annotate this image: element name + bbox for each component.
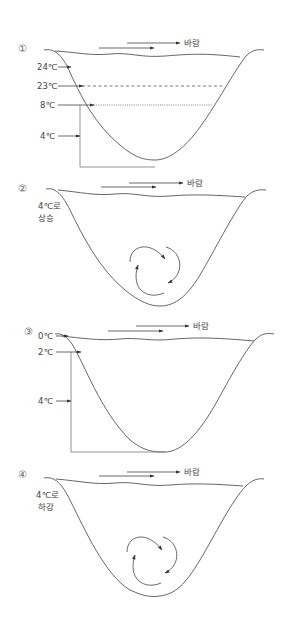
sink-label-line2: 하강 bbox=[38, 502, 54, 512]
circulation-arrows-icon bbox=[127, 537, 177, 585]
panel-3-winter-stratification: ③ 바람 0℃ 2℃ 4℃ bbox=[24, 321, 274, 452]
rise-label-line2: 상승 bbox=[38, 213, 54, 223]
lake-turnover-diagram: ① 바람 24℃ 23℃ 8℃ 4℃ ② 바람 4℃로 상승 bbox=[0, 0, 287, 620]
sink-label-line1: 4℃로 bbox=[36, 490, 59, 500]
panel-2-fall-turnover: ② 바람 4℃로 상승 bbox=[18, 178, 266, 306]
water-surface bbox=[55, 51, 240, 57]
temp-label-0: 0℃ bbox=[38, 331, 53, 341]
wind-label: 바람 bbox=[193, 321, 209, 331]
lake-basin bbox=[55, 334, 274, 452]
temp-label-4: 4℃ bbox=[40, 131, 55, 141]
temp-label-2: 2℃ bbox=[38, 347, 53, 357]
temp-label-23: 23℃ bbox=[37, 81, 58, 91]
hypolimnion-bracket bbox=[80, 105, 155, 167]
wind-label: 바람 bbox=[187, 178, 203, 188]
lake-basin bbox=[46, 189, 266, 306]
lake-basin bbox=[44, 478, 264, 597]
circulation-arrows-icon bbox=[130, 247, 180, 295]
panel-3-number: ③ bbox=[24, 326, 33, 337]
panel-2-number: ② bbox=[18, 183, 27, 194]
water-surface bbox=[62, 336, 254, 341]
water-surface bbox=[56, 479, 243, 486]
depth-bracket bbox=[71, 352, 165, 452]
wind-label: 바람 bbox=[184, 467, 200, 477]
temp-label-4: 4℃ bbox=[38, 396, 53, 406]
panel-4-number: ④ bbox=[18, 469, 27, 480]
panel-1-number: ① bbox=[18, 43, 27, 54]
panel-4-spring-turnover: ④ 바람 4℃로 하강 bbox=[18, 467, 264, 596]
water-surface bbox=[58, 190, 245, 197]
rise-label-line1: 4℃로 bbox=[38, 201, 61, 211]
panel-1-summer-stratification: ① 바람 24℃ 23℃ 8℃ 4℃ bbox=[18, 38, 264, 167]
wind-label: 바람 bbox=[184, 38, 200, 48]
temp-label-24: 24℃ bbox=[37, 62, 58, 72]
temp-label-8: 8℃ bbox=[40, 100, 55, 110]
